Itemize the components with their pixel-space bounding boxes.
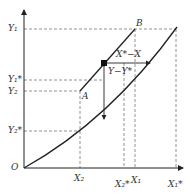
operating-line-ab [80, 29, 135, 91]
operating-point [101, 60, 107, 66]
point-b-label: B [136, 19, 143, 28]
x-tick-x1: X₁ [131, 176, 141, 185]
point-a-label: A [82, 92, 89, 101]
diagram-canvas: Y₁ Y₁* Y₂ Y₂* O X₂ X₂* X₁ X₁* A B X*−X Y… [0, 0, 191, 193]
y-tick-y1-star: Y₁* [8, 75, 22, 84]
vertical-force-label: Y−Y* [108, 67, 132, 76]
diagram-svg [0, 0, 191, 193]
equilibrium-curve [24, 27, 177, 168]
origin-label: O [11, 163, 18, 172]
y-tick-y2-star: Y₂* [8, 126, 22, 135]
x-tick-x2-star: X₂* [115, 180, 130, 189]
horizontal-force-label: X*−X [116, 50, 141, 59]
y-tick-y1: Y₁ [8, 24, 18, 33]
y-tick-y2: Y₂ [8, 87, 18, 96]
x-tick-x1-star: X₁* [168, 180, 183, 189]
x-tick-x2: X₂ [74, 174, 84, 183]
guide-lines [24, 29, 176, 168]
